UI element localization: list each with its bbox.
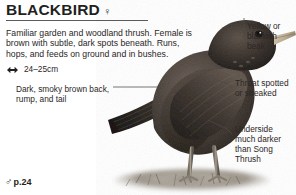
- callout-back: Dark, smoky brown back, rump, and tail: [16, 84, 132, 104]
- length-arrow-icon: [7, 60, 18, 78]
- page-reference-text: p.24: [14, 177, 32, 187]
- page-title: BLACKBIRD: [6, 2, 100, 18]
- size-row: 24–25cm: [7, 60, 58, 78]
- callout-underside: Underside much darker than Song Thrush: [235, 124, 295, 164]
- male-symbol-icon: ♂: [5, 176, 13, 187]
- title-row: BLACKBIRD ♀: [6, 2, 156, 18]
- field-guide-page: BLACKBIRD ♀ Familiar garden and woodland…: [0, 0, 296, 195]
- callout-beak: Yellow or blackish beak: [247, 21, 293, 51]
- title-divider: [6, 20, 148, 21]
- species-description: Familiar garden and woodland thrush. Fem…: [6, 28, 192, 60]
- callout-throat: Throat spotted or streaked: [235, 78, 293, 98]
- female-symbol-icon: ♀: [103, 6, 111, 17]
- title-block: BLACKBIRD ♀: [6, 2, 156, 21]
- male-page-reference[interactable]: ♂ p.24: [5, 176, 32, 187]
- size-value: 24–25cm: [24, 64, 58, 74]
